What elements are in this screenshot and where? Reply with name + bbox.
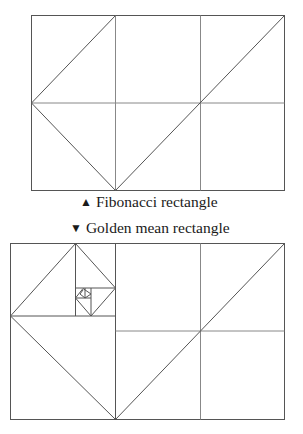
golden-mean-caption: ▼Golden mean rectangle	[70, 220, 230, 236]
diagram-canvas	[0, 0, 303, 434]
golden-mean-rectangle	[11, 244, 285, 420]
triangle-down-icon: ▼	[70, 221, 82, 235]
fibonacci-caption-text: Fibonacci rectangle	[96, 193, 218, 210]
golden-mean-caption-text: Golden mean rectangle	[86, 219, 230, 236]
fibonacci-rectangle	[32, 16, 285, 191]
fibonacci-caption: ▲Fibonacci rectangle	[80, 194, 218, 210]
triangle-up-icon: ▲	[80, 195, 92, 209]
